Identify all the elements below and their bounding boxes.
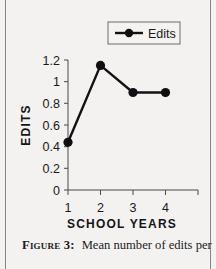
x-axis-title: SCHOOL YEARS (67, 217, 177, 231)
chart-legend: Edits (108, 22, 180, 44)
legend-marker-icon (125, 29, 133, 37)
x-tick-label-4: 4 (162, 201, 169, 215)
data-point (63, 138, 72, 147)
y-tick-label-0-6: 0.6 (43, 119, 60, 133)
scanned-page: Edits 0 0.2 0.4 0.6 0.8 (0, 0, 216, 269)
data-point (161, 88, 170, 97)
figure-caption-line2 (22, 259, 202, 269)
y-axis-title: EDITS (19, 104, 33, 145)
figure-caption-label: Figure 3: (22, 238, 75, 252)
x-tick-label-3: 3 (130, 201, 137, 215)
y-tick-label-0-4: 0.4 (43, 140, 60, 154)
x-axis-tick-labels: 1 2 3 4 (65, 201, 170, 215)
page-column-rule-left (5, 0, 6, 269)
y-tick-label-1: 1 (53, 75, 60, 89)
y-tick-label-0-8: 0.8 (43, 97, 60, 111)
y-axis-tick-labels: 0 0.2 0.4 0.6 0.8 1 1.2 (43, 54, 60, 198)
y-tick-label-0: 0 (53, 184, 60, 198)
y-tick-label-0-2: 0.2 (43, 162, 60, 176)
data-point (128, 88, 137, 97)
series-edits (63, 61, 170, 147)
page-column-rule-right (210, 0, 211, 269)
y-axis-ticks (64, 60, 68, 190)
x-tick-label-2: 2 (97, 201, 104, 215)
data-point (96, 61, 105, 70)
series-line-edits (68, 65, 166, 142)
figure-caption-text: Mean number of edits per (82, 238, 212, 252)
x-axis-ticks (68, 190, 198, 195)
x-tick-label-1: 1 (65, 201, 72, 215)
line-chart: Edits 0 0.2 0.4 0.6 0.8 (8, 0, 210, 236)
figure-caption: Figure 3:Mean number of edits per (22, 238, 202, 253)
figure-chart: Edits 0 0.2 0.4 0.6 0.8 (8, 0, 210, 236)
y-tick-label-1-2: 1.2 (43, 54, 60, 68)
legend-label-edits: Edits (148, 27, 176, 41)
